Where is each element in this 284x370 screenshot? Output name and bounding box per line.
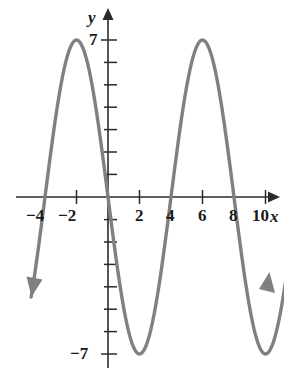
graph-figure: y x 7 −7 −4 −2 2 4 6 8 10 <box>0 0 284 370</box>
curve-right-arrow-icon <box>259 272 275 293</box>
x-tick-label-6: 6 <box>198 207 207 224</box>
x-tick-label-2: 2 <box>135 207 144 224</box>
curve-left-arrow-icon <box>27 277 43 298</box>
y-tick-label-neg7: −7 <box>70 345 88 362</box>
y-axis-arrow-icon <box>103 8 114 20</box>
x-tick-label-10: 10 <box>252 207 269 224</box>
y-axis-label: y <box>88 9 96 26</box>
x-tick-label-neg4: −4 <box>26 207 44 224</box>
x-tick-label-4: 4 <box>166 207 175 224</box>
x-axis-arrow-icon <box>268 192 280 203</box>
coordinate-plane <box>0 0 284 370</box>
x-tick-label-8: 8 <box>229 207 238 224</box>
x-axis-label: x <box>270 208 279 225</box>
y-tick-label-7: 7 <box>89 31 98 48</box>
x-tick-label-neg2: −2 <box>58 207 76 224</box>
